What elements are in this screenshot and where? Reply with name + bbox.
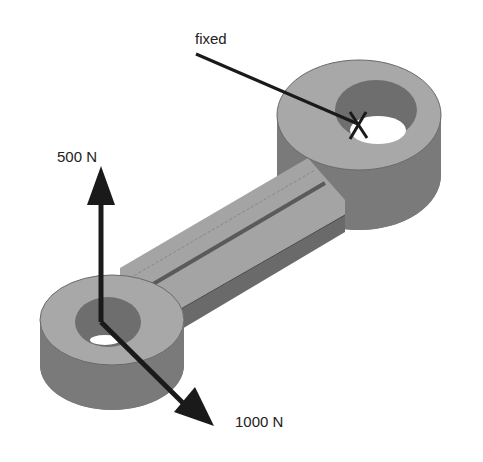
fixed-label: fixed: [195, 30, 227, 47]
connecting-rod-diagram: [0, 0, 483, 462]
small-boss: [40, 275, 184, 410]
force-500n-label: 500 N: [57, 148, 97, 165]
force-1000n-label: 1000 N: [235, 413, 283, 430]
large-boss-top: [277, 60, 441, 170]
